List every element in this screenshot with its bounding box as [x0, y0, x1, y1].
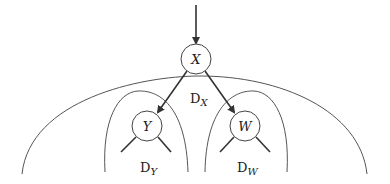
- domain-label-dx: DX: [190, 91, 208, 108]
- domain-label-dy: DY: [140, 160, 158, 177]
- tree-domain-diagram: X Y W DX DY DW: [0, 0, 390, 184]
- node-w-label: W: [238, 119, 253, 134]
- subtree-stub-y-right: [158, 137, 171, 152]
- subtree-stub-w-left: [220, 137, 234, 152]
- subtree-stub-w-right: [256, 137, 270, 152]
- node-x: X: [181, 44, 211, 74]
- subtree-stub-y-left: [121, 137, 136, 152]
- node-y-label: Y: [143, 119, 153, 134]
- domain-label-dw: DW: [237, 160, 258, 177]
- node-y: Y: [132, 111, 162, 141]
- node-x-label: X: [190, 52, 201, 67]
- node-w: W: [230, 111, 260, 141]
